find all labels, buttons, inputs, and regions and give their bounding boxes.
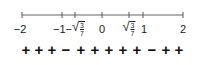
- sign-11: +: [175, 42, 184, 57]
- sign-7: +: [119, 42, 128, 57]
- sqrt-three-sevenths: √37: [122, 20, 135, 37]
- sign-chart-row: + + + − + + + + + − + + +: [0, 42, 197, 58]
- sign-2: +: [48, 42, 57, 57]
- sign-0: +: [22, 42, 31, 57]
- tick-label-neg-two: −2: [14, 24, 27, 35]
- sign-5: +: [91, 42, 100, 57]
- sign-10: +: [162, 42, 171, 57]
- tick-label-one: 1: [141, 24, 147, 35]
- sign-6: +: [105, 42, 114, 57]
- sign-3: −: [62, 42, 71, 57]
- sign-4: +: [77, 42, 86, 57]
- neg-one-minus-text: −1−: [53, 23, 72, 35]
- sqrt-three-sevenths: √37: [72, 20, 85, 37]
- sign-1: +: [35, 42, 44, 57]
- sign-8: +: [133, 42, 142, 57]
- tick-label-sqrt: √37: [122, 20, 135, 37]
- tick-label-zero: 0: [99, 24, 105, 35]
- tick-label-neg-one-minus-sqrt: −1−√37: [53, 20, 85, 37]
- sign-9: −: [148, 42, 157, 57]
- tick-label-two: 2: [180, 24, 186, 35]
